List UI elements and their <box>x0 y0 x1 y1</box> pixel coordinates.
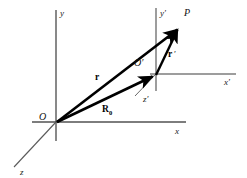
x-axis-label: x <box>174 126 179 136</box>
vector-R0-label-group: R 0 <box>102 104 112 116</box>
vector-R0-label: R <box>102 104 109 114</box>
z-prime-axis-label: z′ <box>142 94 150 104</box>
z-axis-line <box>14 122 56 167</box>
vector-r-prime-label: r <box>168 49 173 59</box>
vector-R0-arrow <box>57 77 153 123</box>
origin-O-prime-label: O′ <box>134 57 144 68</box>
vector-r-arrow <box>57 30 178 123</box>
vector-arrows <box>57 30 178 123</box>
z-axis-label: z <box>19 167 24 177</box>
diagram-canvas: x y z x′ y′ z′ O O′ P r R 0 r ′ <box>0 0 247 178</box>
y-axis-label: y <box>59 8 64 18</box>
vector-R0-subscript: 0 <box>109 109 112 116</box>
vector-diagram-figure: x y z x′ y′ z′ O O′ P r R 0 r ′ <box>0 0 247 178</box>
x-prime-axis-label: x′ <box>223 77 231 87</box>
vector-r-prime-mark: ′ <box>174 49 177 59</box>
point-P-label: P <box>183 7 190 18</box>
y-prime-axis-label: y′ <box>159 8 167 18</box>
origin-O-label: O <box>39 111 46 122</box>
vector-r-label: r <box>95 72 100 82</box>
vector-r-prime-label-group: r ′ <box>168 49 177 59</box>
